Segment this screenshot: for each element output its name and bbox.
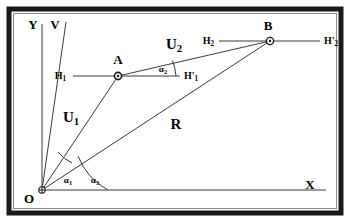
figure-container: Y V X O A B U1 U2 R H1 H'1 H2 H'2 α1 α3 … <box>0 0 350 222</box>
label-point-o: O <box>24 191 34 206</box>
vector-diagram: Y V X O A B U1 U2 R H1 H'1 H2 H'2 α1 α3 … <box>0 0 350 222</box>
label-y-axis: Y <box>28 17 38 32</box>
label-point-b: B <box>264 18 273 33</box>
label-vector-r: R <box>171 116 182 132</box>
label-point-a: A <box>113 52 123 67</box>
label-v-axis: V <box>50 17 60 32</box>
label-x-axis: X <box>305 177 315 192</box>
